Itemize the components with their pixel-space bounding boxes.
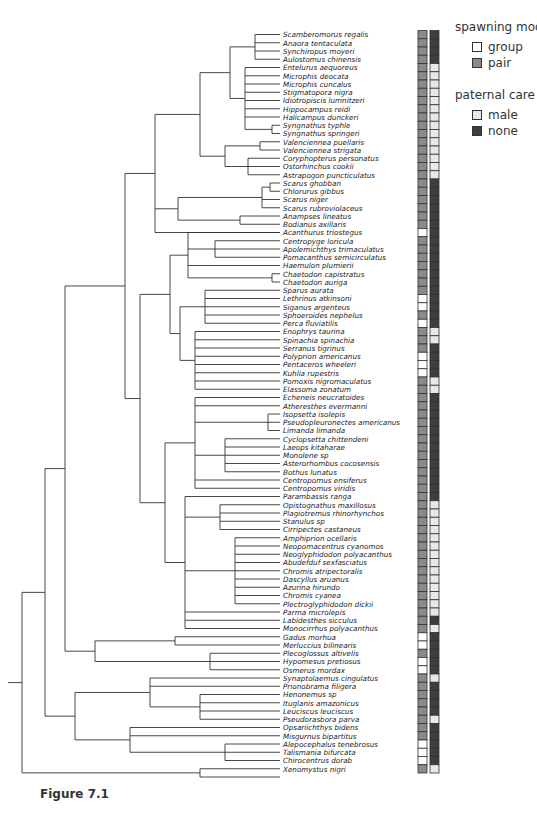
legend-label-none: none bbox=[488, 124, 518, 138]
care-cell bbox=[430, 567, 439, 575]
care-cell bbox=[430, 113, 439, 121]
care-cell bbox=[430, 130, 439, 138]
care-cell bbox=[430, 88, 439, 96]
care-cell bbox=[430, 97, 439, 105]
care-cell bbox=[430, 583, 439, 591]
spawning-cell bbox=[418, 336, 427, 344]
care-cell bbox=[430, 484, 439, 492]
care-cell bbox=[430, 229, 439, 237]
care-cell bbox=[430, 187, 439, 195]
care-cell bbox=[430, 427, 439, 435]
care-cell bbox=[430, 517, 439, 525]
care-cell bbox=[430, 757, 439, 765]
care-cell bbox=[430, 476, 439, 484]
care-cell bbox=[430, 641, 439, 649]
spawning-cell bbox=[418, 427, 427, 435]
legend-item-none: none bbox=[472, 124, 537, 138]
spawning-cell bbox=[418, 121, 427, 129]
spawning-cell bbox=[418, 394, 427, 402]
spawning-cell bbox=[418, 361, 427, 369]
spawning-cell bbox=[418, 559, 427, 567]
care-cell bbox=[430, 534, 439, 542]
care-cell bbox=[430, 394, 439, 402]
care-cell bbox=[430, 674, 439, 682]
spawning-cell bbox=[418, 229, 427, 237]
care-cell bbox=[430, 237, 439, 245]
care-cell bbox=[430, 633, 439, 641]
spawning-cell bbox=[418, 501, 427, 509]
spawning-cell bbox=[418, 179, 427, 187]
legend-spawning-title: spawning mode bbox=[455, 20, 537, 34]
tree-branches bbox=[8, 35, 280, 778]
legend-item-pair: pair bbox=[472, 56, 537, 70]
care-cell bbox=[430, 72, 439, 80]
care-cell bbox=[430, 550, 439, 558]
legend: spawning mode group pair paternal care m… bbox=[455, 20, 537, 140]
spawning-cell bbox=[418, 748, 427, 756]
care-cell bbox=[430, 616, 439, 624]
care-cell bbox=[430, 418, 439, 426]
care-cell bbox=[430, 270, 439, 278]
spawning-cell bbox=[418, 163, 427, 171]
spawning-cell bbox=[418, 625, 427, 633]
spawning-cell bbox=[418, 253, 427, 261]
taxon-label: Xenomystus nigri bbox=[282, 765, 346, 774]
care-cell bbox=[430, 559, 439, 567]
spawning-cell bbox=[418, 262, 427, 270]
spawning-cell bbox=[418, 80, 427, 88]
spawning-cell bbox=[418, 369, 427, 377]
male-swatch-icon bbox=[472, 110, 482, 120]
care-cell bbox=[430, 369, 439, 377]
spawning-cell bbox=[418, 649, 427, 657]
spawning-cell bbox=[418, 608, 427, 616]
spawning-cell bbox=[418, 97, 427, 105]
care-cell bbox=[430, 352, 439, 360]
care-cell bbox=[430, 435, 439, 443]
care-cell bbox=[430, 278, 439, 286]
spawning-cell bbox=[418, 765, 427, 773]
care-cell bbox=[430, 691, 439, 699]
spawning-cell bbox=[418, 468, 427, 476]
spawning-cell bbox=[418, 55, 427, 63]
care-cell bbox=[430, 171, 439, 179]
spawning-cell bbox=[418, 699, 427, 707]
care-cell bbox=[430, 196, 439, 204]
spawning-cell bbox=[418, 196, 427, 204]
spawning-cell bbox=[418, 146, 427, 154]
care-cell bbox=[430, 732, 439, 740]
spawning-cell bbox=[418, 130, 427, 138]
spawning-cell bbox=[418, 72, 427, 80]
pair-swatch-icon bbox=[472, 58, 482, 68]
spawning-cell bbox=[418, 600, 427, 608]
spawning-cell bbox=[418, 476, 427, 484]
care-cell bbox=[430, 377, 439, 385]
care-cell bbox=[430, 608, 439, 616]
spawning-cell bbox=[418, 171, 427, 179]
spawning-cell bbox=[418, 550, 427, 558]
care-cell bbox=[430, 295, 439, 303]
spawning-cell bbox=[418, 707, 427, 715]
spawning-cell bbox=[418, 377, 427, 385]
spawning-cell bbox=[418, 592, 427, 600]
spawning-cell bbox=[418, 328, 427, 336]
care-cell bbox=[430, 410, 439, 418]
spawning-cell bbox=[418, 517, 427, 525]
none-swatch-icon bbox=[472, 126, 482, 136]
spawning-cell bbox=[418, 418, 427, 426]
care-cell bbox=[430, 146, 439, 154]
spawning-cell bbox=[418, 270, 427, 278]
spawning-cell bbox=[418, 204, 427, 212]
care-cell bbox=[430, 204, 439, 212]
care-cell bbox=[430, 625, 439, 633]
care-cell bbox=[430, 600, 439, 608]
spawning-cell bbox=[418, 410, 427, 418]
spawning-cell bbox=[418, 724, 427, 732]
care-cell bbox=[430, 493, 439, 501]
trait-columns bbox=[418, 31, 439, 774]
care-cell bbox=[430, 361, 439, 369]
spawning-cell bbox=[418, 278, 427, 286]
spawning-cell bbox=[418, 212, 427, 220]
care-cell bbox=[430, 286, 439, 294]
spawning-cell bbox=[418, 542, 427, 550]
care-cell bbox=[430, 64, 439, 72]
